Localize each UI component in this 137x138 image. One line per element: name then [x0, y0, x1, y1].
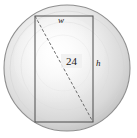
- diagonal-length-label: 24: [66, 56, 77, 67]
- width-label: w: [58, 16, 64, 25]
- geometry-figure: w h 24: [0, 0, 137, 138]
- figure-canvas: [0, 0, 137, 138]
- height-label: h: [96, 59, 101, 68]
